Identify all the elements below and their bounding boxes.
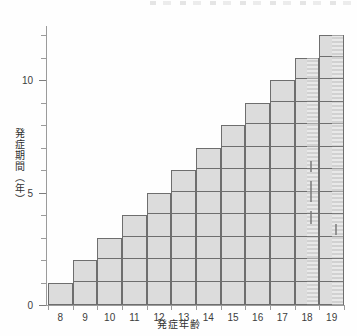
bar-unit-cell — [197, 236, 220, 237]
bar-unit-cell — [296, 146, 319, 147]
bar-unit-cell — [197, 191, 220, 192]
x-tick-label: 18 — [301, 312, 312, 323]
bar — [48, 283, 73, 306]
bar-unit-cell — [74, 281, 97, 282]
bar-unit-cell — [271, 168, 294, 169]
bar-unit-cell — [172, 191, 195, 192]
x-tick-label: 13 — [178, 312, 189, 323]
scan-streak-dark — [310, 161, 312, 172]
bar-unit-cell — [271, 191, 294, 192]
bar-unit-cell — [296, 258, 319, 259]
bar-unit-cell — [296, 168, 319, 169]
x-tick — [196, 305, 197, 310]
bar-unit-cell — [246, 281, 269, 282]
bar-unit-cell — [296, 191, 319, 192]
bar-unit-cell — [98, 258, 121, 259]
x-tick — [295, 305, 296, 310]
x-tick-label: 9 — [82, 312, 88, 323]
bar-unit-cell — [296, 123, 319, 124]
bar-unit-cell — [123, 258, 146, 259]
x-tick-label: 10 — [104, 312, 115, 323]
y-tick-minor — [41, 148, 46, 149]
bar — [319, 35, 344, 305]
bar-unit-cell — [172, 236, 195, 237]
x-tick-label: 17 — [277, 312, 288, 323]
y-tick-minor — [41, 283, 46, 284]
x-tick — [147, 305, 148, 310]
y-tick-minor — [41, 170, 46, 171]
y-tick-minor — [41, 35, 46, 36]
bar — [295, 58, 320, 306]
bar-unit-cell — [148, 281, 171, 282]
x-tick-label: 11 — [129, 312, 139, 323]
bar-unit-cell — [320, 281, 343, 282]
y-tick-minor — [41, 215, 46, 216]
bar-unit-cell — [271, 101, 294, 102]
x-tick-label: 8 — [58, 312, 64, 323]
bar-unit-cell — [222, 213, 245, 214]
bar-unit-cell — [246, 236, 269, 237]
x-tick-label: 19 — [326, 312, 337, 323]
bar — [221, 125, 246, 305]
y-axis-line — [46, 26, 47, 306]
y-tick-major: 0 — [39, 305, 46, 306]
plot-area: 0510 8910111213141516171819 — [48, 26, 344, 305]
bar-unit-cell — [197, 258, 220, 259]
x-tick — [245, 305, 246, 310]
bar-unit-cell — [296, 101, 319, 102]
x-tick-label: 12 — [153, 312, 164, 323]
x-tick — [48, 305, 49, 310]
y-tick-minor — [41, 58, 46, 59]
bar-unit-cell — [98, 281, 121, 282]
y-tick-label: 0 — [27, 300, 33, 311]
bar-unit-cell — [296, 78, 319, 79]
y-axis-title: 発症期間（年） — [8, 128, 24, 205]
bar-unit-cell — [320, 191, 343, 192]
y-tick-label: 10 — [22, 75, 33, 86]
bar-unit-cell — [246, 123, 269, 124]
bar-unit-cell — [148, 236, 171, 237]
bar-unit-cell — [271, 258, 294, 259]
bar-unit-cell — [271, 213, 294, 214]
bar-unit-cell — [320, 213, 343, 214]
bar-unit-cell — [296, 213, 319, 214]
y-tick-minor — [41, 238, 46, 239]
bar-unit-cell — [197, 281, 220, 282]
y-tick-major: 10 — [39, 80, 46, 81]
x-tick — [97, 305, 98, 310]
bar — [97, 238, 122, 306]
bar — [245, 103, 270, 306]
bar-unit-cell — [320, 56, 343, 57]
bar-unit-cell — [320, 101, 343, 102]
bar — [147, 193, 172, 306]
bar-unit-cell — [271, 281, 294, 282]
bar-unit-cell — [197, 213, 220, 214]
x-tick — [344, 305, 345, 310]
scan-streak-dark — [310, 211, 312, 225]
bar-unit-cell — [246, 191, 269, 192]
y-tick-minor — [41, 260, 46, 261]
bar-unit-cell — [296, 281, 319, 282]
bar-unit-cell — [246, 146, 269, 147]
bar — [122, 215, 147, 305]
bar-unit-cell — [271, 236, 294, 237]
bar-unit-cell — [197, 168, 220, 169]
bar-unit-cell — [320, 78, 343, 79]
bar-unit-cell — [246, 213, 269, 214]
x-tick — [221, 305, 222, 310]
bar — [196, 148, 221, 306]
bar-unit-cell — [222, 258, 245, 259]
bar — [171, 170, 196, 305]
bar-unit-cell — [222, 281, 245, 282]
scan-streak-dark — [310, 181, 312, 201]
bar-unit-cell — [172, 258, 195, 259]
bar-unit-cell — [222, 191, 245, 192]
scan-streak-dark — [335, 224, 337, 235]
bar-unit-cell — [222, 168, 245, 169]
y-tick-label: 5 — [27, 187, 33, 198]
x-tick — [270, 305, 271, 310]
bar-unit-cell — [320, 258, 343, 259]
bar-unit-cell — [320, 146, 343, 147]
x-tick-label: 15 — [227, 312, 238, 323]
bar-unit-cell — [246, 168, 269, 169]
